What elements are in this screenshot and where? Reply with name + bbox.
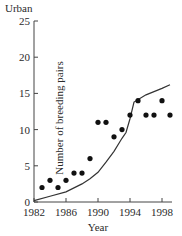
data-point: [39, 185, 44, 190]
x-axis-label: Year: [88, 221, 108, 233]
data-point: [159, 98, 164, 103]
chart-canvas: 051015202519821986199019941998: [0, 0, 182, 236]
data-point: [111, 134, 116, 139]
x-tick-label: 1998: [151, 206, 174, 218]
chart-title: Urban: [5, 2, 33, 14]
x-tick-label: 1986: [55, 206, 78, 218]
data-point: [143, 113, 148, 118]
data-point: [87, 156, 92, 161]
data-point: [95, 120, 100, 125]
y-tick-label: 25: [19, 15, 31, 27]
y-axis-label: Number of breeding pairs: [53, 61, 65, 174]
data-point: [135, 98, 140, 103]
data-point: [119, 127, 124, 132]
data-point: [151, 113, 156, 118]
x-tick-label: 1990: [87, 206, 110, 218]
y-tick-label: 20: [19, 51, 31, 63]
y-tick-label: 15: [19, 87, 31, 99]
data-point: [167, 113, 172, 118]
data-point: [103, 120, 108, 125]
data-point: [63, 178, 68, 183]
x-tick-label: 1994: [119, 206, 142, 218]
y-tick-label: 10: [19, 124, 31, 136]
data-point: [127, 113, 132, 118]
x-tick-label: 1982: [23, 206, 45, 218]
data-point: [79, 170, 84, 175]
data-point: [71, 170, 76, 175]
y-tick-label: 5: [25, 160, 31, 172]
data-point: [47, 178, 52, 183]
data-point: [55, 185, 60, 190]
